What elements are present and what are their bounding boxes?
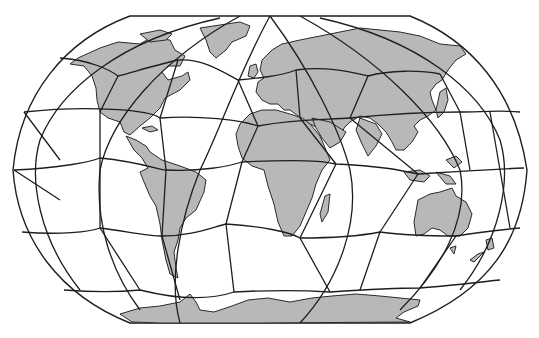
world-map bbox=[0, 0, 539, 338]
